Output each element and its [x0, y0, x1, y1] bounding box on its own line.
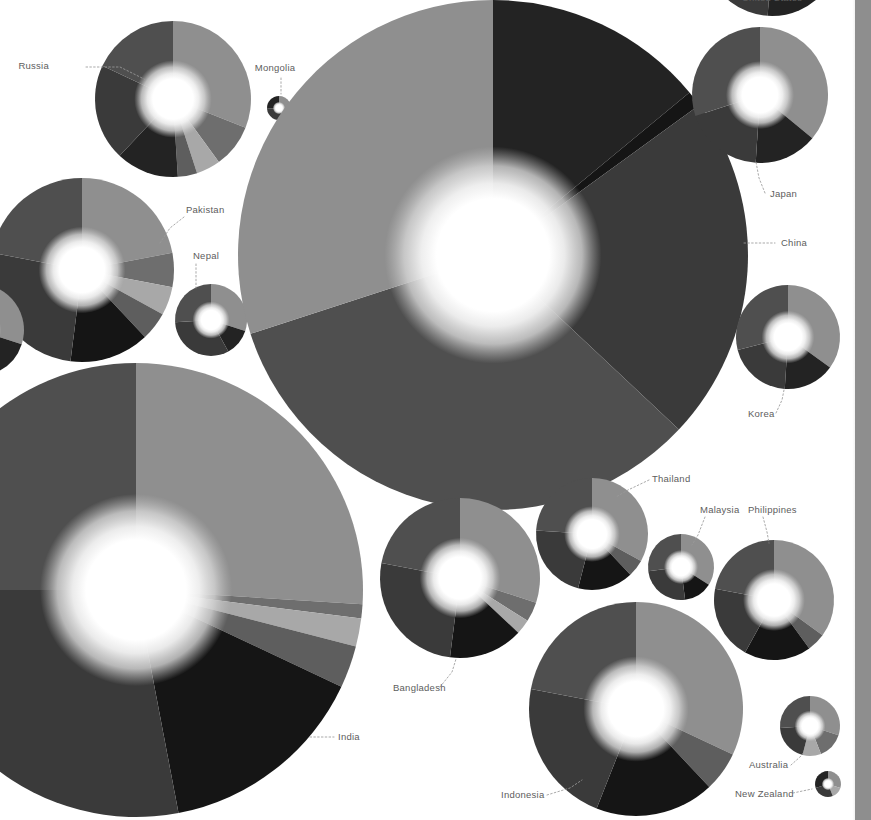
pie-chart-china[interactable] [238, 0, 748, 510]
country-label-pakistan: Pakistan [186, 204, 224, 215]
pie-chart-pakistan[interactable] [0, 178, 174, 362]
leader-line [791, 752, 804, 765]
pie-chart-nepal[interactable] [175, 284, 247, 356]
country-label-malaysia: Malaysia [700, 504, 740, 515]
pie-hub-core [802, 718, 818, 734]
leader-line [756, 162, 765, 193]
country-label-india: India [338, 731, 360, 742]
pie-hub-core [88, 542, 185, 639]
country-label-nepal: Nepal [193, 250, 219, 261]
pie-chart-russia[interactable] [95, 21, 251, 177]
country-label-indonesia: Indonesia [501, 789, 545, 800]
chart-canvas: RussiaMongoliaPakistanNepalChinaJapanKor… [0, 0, 871, 820]
pie-hub-core [672, 558, 689, 575]
pie-hub-core [438, 200, 547, 309]
leader-line [793, 789, 812, 793]
country-label-bangladesh: Bangladesh [393, 682, 446, 693]
country-label-philippines: Philippines [748, 504, 797, 515]
country-label-united-states: United States [742, 0, 802, 3]
pie-hub-core [743, 78, 777, 112]
pie-hub-core [60, 248, 104, 292]
pie-chart-india[interactable] [0, 363, 363, 817]
pie-chart-indonesia[interactable] [529, 602, 743, 816]
pie-hub-core [440, 558, 481, 599]
country-label-australia: Australia [749, 759, 789, 770]
pie-hub-core [610, 683, 663, 736]
country-label-russia: Russia [18, 60, 49, 71]
pie-hub-core [202, 311, 221, 330]
pie-chart-philippines[interactable] [714, 540, 834, 660]
pie-hub-core [775, 324, 802, 351]
country-label-china: China [781, 237, 808, 248]
pie-chart-malaysia[interactable] [648, 534, 714, 600]
pie-chart-korea[interactable] [736, 285, 840, 389]
pie-group [0, 0, 841, 817]
pie-chart-australia[interactable] [780, 696, 840, 756]
pie-chart-new-zealand[interactable] [815, 771, 841, 797]
country-label-thailand: Thailand [652, 473, 690, 484]
pie-chart-bangladesh[interactable] [380, 498, 540, 658]
pie-hub-core [825, 781, 831, 787]
pie-hub-core [276, 105, 282, 111]
country-label-korea: Korea [748, 408, 775, 419]
leader-line [763, 517, 769, 543]
pie-hub-core [758, 584, 789, 615]
pie-chart-map: RussiaMongoliaPakistanNepalChinaJapanKor… [0, 0, 871, 820]
scrollbar-track[interactable] [855, 0, 871, 820]
pie-chart-thailand[interactable] [536, 478, 648, 590]
pie-chart-japan[interactable] [692, 27, 828, 163]
country-label-japan: Japan [770, 188, 797, 199]
pie-hub-core [154, 80, 193, 119]
scrollbar-thumb[interactable] [855, 0, 871, 820]
country-label-mongolia: Mongolia [255, 62, 296, 73]
country-label-new-zealand: New Zealand [735, 788, 794, 799]
pie-hub-core [578, 520, 606, 548]
leader-line [776, 390, 784, 413]
